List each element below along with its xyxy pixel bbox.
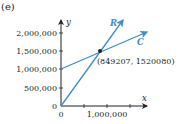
x-axis-label: x xyxy=(142,93,147,103)
chart-svg: (e) y x 2,000,000 1,500,000 1,000,000 50… xyxy=(0,0,187,124)
y-axis-label: y xyxy=(65,17,71,27)
x-tick-label: 0 xyxy=(58,110,63,119)
series-label-c: C xyxy=(137,37,144,47)
panel-label: (e) xyxy=(1,1,15,12)
series-label-r: R xyxy=(109,18,117,28)
y-tick-label: 1,500,000 xyxy=(16,47,57,56)
chart-figure: (e) y x 2,000,000 1,500,000 1,000,000 50… xyxy=(0,0,187,124)
intersection-label: (849207, 1520080) xyxy=(97,57,175,66)
y-tick-label: 0 xyxy=(52,102,57,111)
y-ticks: 2,000,000 1,500,000 1,000,000 500,000 0 xyxy=(16,29,63,111)
x-tick-label: 1,000,000 xyxy=(87,110,128,119)
y-tick-label: 500,000 xyxy=(24,84,57,93)
intersection-point xyxy=(98,49,102,53)
y-tick-label: 2,000,000 xyxy=(16,29,57,38)
y-tick-label: 1,000,000 xyxy=(16,65,57,74)
